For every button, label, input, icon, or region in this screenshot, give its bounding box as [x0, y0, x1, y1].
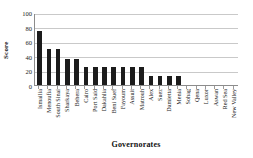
bar-slot	[81, 14, 90, 86]
x-category-label-text: Qena	[193, 89, 200, 102]
plot-area	[34, 14, 238, 87]
y-tick-label: 40	[14, 54, 32, 61]
x-category-label: Suez	[156, 89, 163, 101]
x-label-slot: Red Sea	[219, 89, 228, 137]
bar-slot	[109, 14, 118, 86]
y-tick-label: 100	[14, 10, 32, 17]
x-label-slot: Aswan	[210, 89, 219, 137]
x-category-label-text: Menia	[174, 89, 181, 105]
x-category-label-text: Behera	[72, 89, 79, 107]
bar-slot	[63, 14, 72, 86]
x-category-label-text: Suez	[156, 89, 163, 101]
x-category-label-text: Menoufia	[44, 89, 51, 113]
x-label-slot: Sohag	[182, 89, 191, 137]
x-category-label: Port Said	[91, 89, 98, 112]
x-category-label: South Sinai	[54, 89, 61, 118]
bar	[93, 67, 98, 85]
x-category-label-text: Cairo	[81, 89, 88, 103]
bar-slot	[174, 14, 183, 86]
x-category-label: New Valley	[230, 89, 237, 118]
x-label-slot: Assuit	[127, 89, 136, 137]
x-category-label: Menia	[174, 89, 181, 105]
x-category-label: Dakahlia	[100, 89, 107, 111]
x-category-label-text: Luxor	[202, 89, 209, 104]
x-label-slot: Behera	[71, 89, 80, 137]
x-category-label: Alex	[146, 89, 153, 101]
x-category-label-text: Fayoum	[119, 89, 126, 109]
x-label-slot: Suez	[154, 89, 163, 137]
x-category-label: Damietta	[165, 89, 172, 112]
x-label-slot: South Sinai	[53, 89, 62, 137]
y-axis-tick-labels: 020406080100	[14, 10, 32, 90]
x-category-label: Fayoum	[119, 89, 126, 109]
bar	[37, 31, 42, 85]
x-label-slot: Qena	[192, 89, 201, 137]
x-category-label: Assuit	[128, 89, 135, 105]
x-category-label-text: Damietta	[165, 89, 172, 112]
x-label-slot: Luxor	[201, 89, 210, 137]
x-label-slot: Ismailia	[34, 89, 43, 137]
y-tick-label: 0	[14, 83, 32, 90]
x-category-label-text: New Valley	[230, 89, 237, 118]
x-category-label-text: Matrouh	[137, 89, 144, 110]
bar-slot	[91, 14, 100, 86]
x-category-label-text: Assuit	[128, 89, 135, 105]
x-category-label: Menoufia	[44, 89, 51, 113]
bar-slot	[146, 14, 155, 86]
x-category-label-text: South Sinai	[54, 89, 61, 118]
x-category-label: Sharkaya	[63, 89, 70, 112]
x-label-slot: New Valley	[229, 89, 238, 137]
x-category-label: Sohag	[183, 89, 190, 104]
x-category-label-text: Beni Suef	[109, 89, 116, 114]
bar-slot	[220, 14, 229, 86]
x-label-slot: Fayoum	[117, 89, 126, 137]
y-tick-label: 60	[14, 39, 32, 46]
x-category-label: Red Sea	[220, 89, 227, 109]
bar	[65, 59, 70, 85]
x-label-slot: Cairo	[80, 89, 89, 137]
bar	[158, 76, 163, 85]
x-category-label: Qena	[193, 89, 200, 102]
x-category-label: Luxor	[202, 89, 209, 104]
bar	[102, 67, 107, 85]
bar-slot	[165, 14, 174, 86]
bar-slot	[100, 14, 109, 86]
bar	[74, 59, 79, 85]
x-category-label: Cairo	[81, 89, 88, 103]
x-category-label-text: Red Sea	[220, 89, 227, 109]
x-label-slot: Menia	[173, 89, 182, 137]
y-tick-label: 20	[14, 68, 32, 75]
x-label-slot: Port Said	[90, 89, 99, 137]
bar	[167, 76, 172, 85]
x-category-label-text: Sohag	[183, 89, 190, 104]
bar-slot	[35, 14, 44, 86]
x-category-label: Matrouh	[137, 89, 144, 110]
bar-slot	[183, 14, 192, 86]
x-category-label: Beni Suef	[109, 89, 116, 114]
x-axis-category-labels: IsmailiaMenoufiaSouth SinaiSharkayaBeher…	[34, 89, 238, 137]
bar-slot	[72, 14, 81, 86]
bar	[130, 67, 135, 85]
x-category-label-text: Sharkaya	[63, 89, 70, 112]
bar	[84, 67, 89, 85]
bar	[139, 67, 144, 85]
bar-slot	[230, 14, 239, 86]
x-category-label: Ismailia	[35, 89, 42, 109]
y-tick-label: 80	[14, 25, 32, 32]
bar-slot	[211, 14, 220, 86]
x-label-slot: Matrouh	[136, 89, 145, 137]
bar	[149, 76, 154, 85]
x-category-label: Behera	[72, 89, 79, 107]
x-label-slot: Beni Suef	[108, 89, 117, 137]
x-label-slot: Menoufia	[43, 89, 52, 137]
bar-slot	[202, 14, 211, 86]
x-category-label: Aswan	[211, 89, 218, 106]
x-category-label-text: Ismailia	[35, 89, 42, 109]
bar-slot	[193, 14, 202, 86]
x-label-slot: Alex	[145, 89, 154, 137]
bar-slot	[118, 14, 127, 86]
bar-slot	[137, 14, 146, 86]
bar-chart-figure: Score 020406080100 IsmailiaMenoufiaSouth…	[0, 0, 253, 158]
bar	[56, 49, 61, 85]
x-axis-title: Governorates	[34, 140, 238, 149]
